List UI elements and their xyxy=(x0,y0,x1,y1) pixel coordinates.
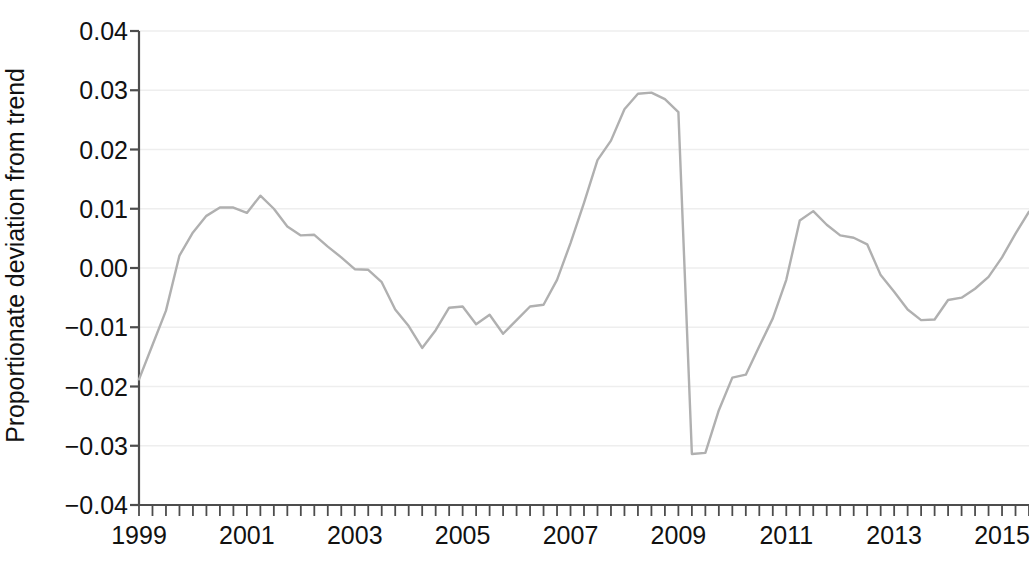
data-series-line xyxy=(139,93,1029,454)
gridlines-group xyxy=(139,31,1029,446)
y-major-ticks-group xyxy=(130,31,139,505)
x-minor-ticks-group xyxy=(139,505,1029,516)
